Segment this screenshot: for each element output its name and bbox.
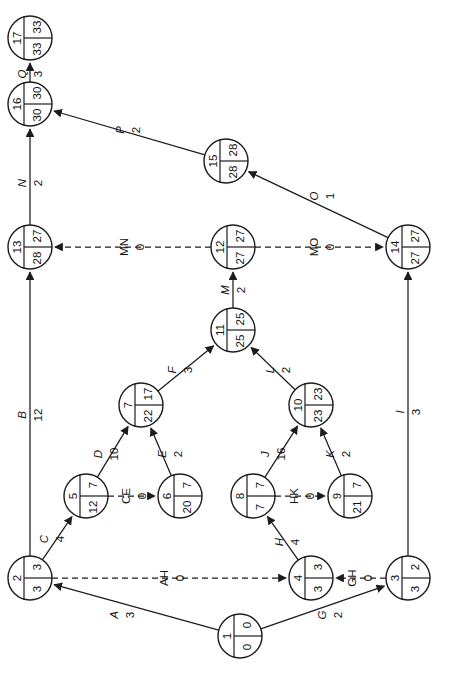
edge-label-group-j: J16 [259, 448, 287, 461]
edge-name-b: B [16, 411, 28, 419]
node-earliest-12: 27 [234, 230, 246, 243]
nodes-layer: 1002333234335712672071722877972110232311… [8, 16, 430, 658]
edge-duration-ah: 0 [174, 575, 186, 581]
node-earliest-13: 27 [31, 230, 43, 243]
node-earliest-16: 30 [31, 87, 43, 100]
edge-duration-j: 16 [275, 448, 287, 461]
node-earliest-5: 7 [87, 482, 99, 488]
node-7[interactable]: 71722 [119, 383, 163, 427]
edge-duration-d: 10 [108, 448, 120, 461]
node-2[interactable]: 233 [8, 556, 52, 600]
edge-name-l: L [264, 367, 276, 373]
node-id-17: 17 [11, 32, 23, 45]
node-latest-17: 33 [31, 43, 43, 56]
edge-label-group-l: L2 [264, 367, 292, 373]
node-latest-12: 27 [234, 252, 246, 265]
edge-duration-q: 3 [32, 71, 44, 77]
edge-name-hk: HK [288, 488, 300, 504]
edge-label-group-f: F3 [166, 366, 194, 374]
node-1[interactable]: 100 [218, 614, 262, 658]
node-3[interactable]: 323 [386, 556, 430, 600]
node-latest-16: 30 [31, 109, 43, 122]
edge-name-g: G [316, 610, 328, 619]
edge-label-group-g: G2 [316, 610, 344, 619]
edge-name-i: I [394, 410, 406, 414]
edge-label-group-e: E2 [156, 450, 184, 458]
node-id-10: 10 [292, 399, 304, 412]
edge-label-group-a: A3 [108, 611, 136, 620]
edge-name-q: Q [16, 69, 28, 78]
node-6[interactable]: 6720 [158, 474, 202, 518]
node-latest-5: 12 [87, 501, 99, 514]
node-earliest-6: 7 [181, 482, 193, 488]
edge-name-o: O [308, 191, 320, 200]
edge-o [249, 172, 389, 238]
node-16[interactable]: 163030 [8, 82, 52, 126]
node-latest-11: 25 [234, 335, 246, 348]
edge-duration-g: 2 [332, 612, 344, 618]
edge-duration-m: 2 [235, 287, 247, 293]
node-earliest-4: 3 [312, 564, 324, 570]
node-12[interactable]: 122727 [211, 225, 255, 269]
edge-label-group-c: C4 [38, 534, 66, 543]
node-id-8: 8 [234, 493, 246, 499]
node-id-9: 9 [331, 493, 343, 499]
edge-name-mn: MN [118, 238, 130, 256]
node-11[interactable]: 112525 [211, 308, 255, 352]
node-id-16: 16 [11, 98, 23, 111]
edge-duration-f: 3 [182, 367, 194, 373]
edge-duration-mn: 0 [134, 244, 146, 250]
node-8[interactable]: 877 [231, 474, 275, 518]
edge-name-d: D [92, 450, 104, 458]
node-id-5: 5 [67, 493, 79, 499]
node-14[interactable]: 142727 [386, 225, 430, 269]
node-earliest-17: 33 [31, 21, 43, 34]
node-latest-2: 3 [31, 586, 43, 592]
edge-name-k: K [324, 449, 336, 458]
node-earliest-1: 0 [241, 622, 253, 628]
edge-name-gh: GH [346, 569, 358, 586]
node-5[interactable]: 5712 [64, 474, 108, 518]
node-id-12: 12 [214, 241, 226, 254]
node-id-7: 7 [122, 402, 134, 408]
node-latest-14: 27 [409, 252, 421, 265]
node-earliest-8: 7 [254, 482, 266, 488]
node-latest-1: 0 [241, 644, 253, 650]
edge-name-f: F [166, 366, 178, 374]
edge-label-group-o: O1 [308, 191, 336, 200]
edge-duration-e: 2 [172, 451, 184, 457]
node-10[interactable]: 102323 [289, 383, 333, 427]
edge-duration-gh: 0 [362, 575, 374, 581]
pert-network-diagram: 1002333234335712672071722877972110232311… [0, 0, 453, 693]
node-latest-6: 20 [181, 501, 193, 514]
edge-duration-p: 2 [130, 127, 142, 133]
node-9[interactable]: 9721 [328, 474, 372, 518]
node-id-13: 13 [11, 241, 23, 254]
node-id-3: 3 [389, 575, 401, 581]
edge-label-group-k: K2 [324, 449, 352, 458]
node-earliest-3: 2 [409, 564, 421, 570]
edge-duration-hk: 0 [304, 493, 316, 499]
edge-name-n: N [16, 178, 28, 187]
node-id-6: 6 [161, 493, 173, 499]
node-17[interactable]: 173333 [8, 16, 52, 60]
edge-duration-h: 4 [289, 538, 301, 545]
node-4[interactable]: 433 [289, 556, 333, 600]
edge-name-j: J [259, 451, 271, 458]
edge-name-ah: AH [158, 570, 170, 586]
edge-duration-b: 12 [32, 409, 44, 422]
edge-name-h: H [273, 537, 285, 546]
edge-name-c: C [38, 534, 50, 543]
edge-label-group-mo: MO0 [308, 238, 336, 257]
node-earliest-15: 28 [227, 144, 239, 157]
edge-duration-k: 2 [340, 451, 352, 457]
node-latest-15: 28 [227, 166, 239, 179]
edge-label-group-hk: HK0 [288, 488, 316, 504]
edge-name-mo: MO [308, 238, 320, 257]
edge-duration-i: 3 [410, 409, 422, 415]
node-13[interactable]: 132728 [8, 225, 52, 269]
edge-duration-c: 4 [54, 535, 66, 542]
node-earliest-2: 3 [31, 564, 43, 570]
node-latest-4: 3 [312, 586, 324, 592]
node-15[interactable]: 152828 [204, 139, 248, 183]
